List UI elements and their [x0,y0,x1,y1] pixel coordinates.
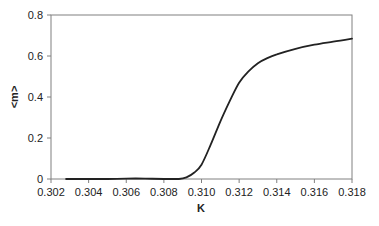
x-tick-label: 0.306 [112,186,140,198]
plot-frame [51,15,352,179]
y-tick-label: 0.2 [28,132,43,144]
x-tick-label: 0.314 [263,186,291,198]
y-tick-label: 0.8 [28,9,43,21]
x-tick-label: 0.304 [75,186,103,198]
x-axis-ticks: 0.3020.3040.3060.3080.3100.3120.3140.316… [37,179,366,198]
y-tick-label: 0.6 [28,50,43,62]
x-tick-label: 0.316 [301,186,329,198]
y-axis-title: <m> [8,86,20,109]
x-tick-label: 0.318 [338,186,366,198]
x-tick-label: 0.312 [225,186,253,198]
y-axis-ticks: 00.20.40.60.8 [28,9,51,185]
x-tick-label: 0.308 [150,186,178,198]
line-chart: 00.20.40.60.8 0.3020.3040.3060.3080.3100… [0,0,379,226]
x-tick-label: 0.310 [188,186,216,198]
x-axis-title: K [197,202,205,214]
x-tick-label: 0.302 [37,186,65,198]
plot-area [51,15,352,179]
y-tick-label: 0 [37,173,43,185]
y-tick-label: 0.4 [28,91,43,103]
